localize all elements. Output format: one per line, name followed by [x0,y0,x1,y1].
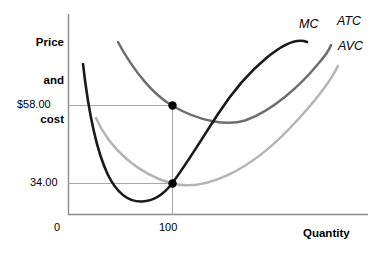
data-point-avc-minimum [168,179,176,187]
avc-curve-label: AVC [338,39,363,53]
mc-curve [83,40,308,202]
atc-curve-label: ATC [337,14,361,28]
x-tick-label-0: 0 [54,221,60,233]
x-axis-title: Quantity [303,227,350,240]
x-tick-label-100: 100 [159,221,177,233]
data-point-atc-at-q100 [168,101,176,109]
y-tick-label-58: $58.00 [17,98,51,110]
avc-curve [96,66,338,185]
y-axis-title-line-3: cost [18,113,64,126]
y-tick-label-34: 34.00 [30,176,58,188]
y-axis-title-line-1: Price [18,36,64,49]
cost-curves-chart: Price and cost Quantity $58.00 34.00 0 1… [0,0,382,258]
y-axis-title: Price and cost [18,10,64,152]
mc-curve-label: MC [299,17,318,31]
atc-curve [118,42,331,123]
mc-curve-stroke [83,41,307,202]
y-axis-title-line-2: and [18,74,64,87]
